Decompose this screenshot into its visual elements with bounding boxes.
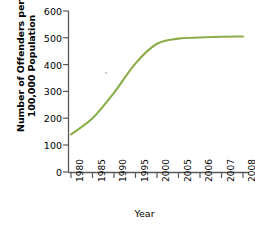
x-tick-label-1990: 1990 bbox=[118, 159, 128, 182]
x-tick-label-2007: 2007 bbox=[226, 159, 236, 182]
x-tick-label-2005: 2005 bbox=[183, 159, 193, 182]
data-series-line bbox=[71, 36, 243, 134]
x-axis-title-text: Year bbox=[100, 208, 154, 219]
x-axis-title: Year bbox=[0, 208, 255, 219]
y-tick-marks bbox=[63, 11, 69, 172]
x-tick-label-1995: 1995 bbox=[140, 159, 150, 182]
x-tick-label-2000: 2000 bbox=[161, 159, 171, 182]
x-tick-label-1980: 1980 bbox=[75, 159, 85, 182]
line-chart-figure: Number of Offenders per 100,000 Populati… bbox=[0, 0, 255, 225]
x-tick-label-2008: 2008 bbox=[247, 159, 255, 182]
plot-area bbox=[0, 0, 255, 225]
scan-speck bbox=[105, 72, 106, 73]
x-tick-label-1985: 1985 bbox=[97, 159, 107, 182]
x-tick-label-2006: 2006 bbox=[204, 159, 214, 182]
